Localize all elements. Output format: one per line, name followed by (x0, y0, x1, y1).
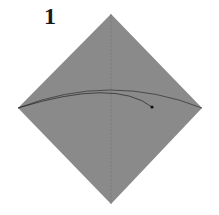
arrow-tip-icon (150, 105, 153, 108)
paper-square (18, 14, 202, 204)
origami-diagram (0, 0, 219, 215)
